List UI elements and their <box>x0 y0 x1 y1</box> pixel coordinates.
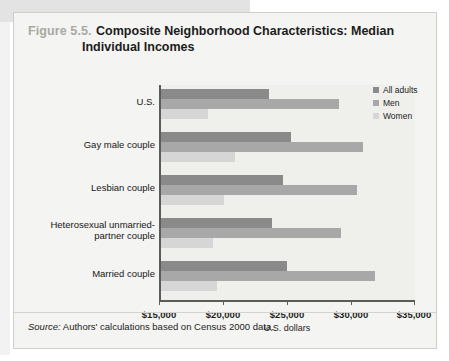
x-axis-ticklabel-35000: $35,000 <box>397 309 431 320</box>
figure-title-line-1: Figure 5.5. Composite Neighborhood Chara… <box>28 21 423 39</box>
legend-swatch-women <box>373 113 379 119</box>
x-axis-tick-4 <box>414 300 415 305</box>
figure-page: Figure 5.5. Composite Neighborhood Chara… <box>0 0 449 361</box>
legend-swatch-all-adults <box>373 87 379 93</box>
source-divider <box>14 312 436 313</box>
bar-lesbian-men <box>159 185 357 195</box>
y-axis-label-lesbian: Lesbian couple <box>25 182 155 193</box>
y-axis-label-heterosexual: Heterosexual unmarried-partner couple <box>25 219 155 241</box>
legend-label-all-adults: All adults <box>383 85 418 95</box>
x-axis-tick-2 <box>287 300 288 305</box>
bar-heterosexual-all-adults <box>159 218 272 228</box>
bar-heterosexual-women <box>159 238 213 248</box>
legend-item-men: Men <box>373 97 439 108</box>
bar-lesbian-all-adults <box>159 175 283 185</box>
x-axis-ticklabel-20000: $20,000 <box>206 309 240 320</box>
y-axis-category-labels: U.S. Gay male couple Lesbian couple Hete… <box>22 85 155 300</box>
bar-us-women <box>159 109 208 119</box>
figure-title-block: Figure 5.5. Composite Neighborhood Chara… <box>28 21 423 55</box>
y-axis-label-married: Married couple <box>25 268 155 279</box>
y-axis-label-gay-male: Gay male couple <box>25 139 155 150</box>
legend-swatch-men <box>373 100 379 106</box>
bar-us-men <box>159 99 339 109</box>
figure-container: Figure 5.5. Composite Neighborhood Chara… <box>13 12 437 349</box>
bar-heterosexual-men <box>159 228 341 238</box>
x-axis-tick-1 <box>223 300 224 305</box>
x-axis-tick-3 <box>351 300 352 305</box>
x-axis-tick-0 <box>159 300 160 305</box>
legend-label-women: Women <box>383 111 412 121</box>
bar-married-all-adults <box>159 261 287 271</box>
source-note: Source: Authors' calculations based on C… <box>28 321 274 332</box>
x-axis-ticklabel-25000: $25,000 <box>270 309 304 320</box>
bar-gay-male-women <box>159 152 235 162</box>
figure-title-text: Composite Neighborhood Characteristics: … <box>96 24 394 38</box>
chart-legend: All adults Men Women <box>373 84 439 123</box>
figure-title-line-2: Individual Incomes <box>82 39 423 55</box>
y-axis-line <box>159 85 161 300</box>
legend-item-women: Women <box>373 110 439 121</box>
x-axis-ticklabel-15000: $15,000 <box>142 309 176 320</box>
y-axis-label-us: U.S. <box>25 96 155 107</box>
x-axis-ticklabel-30000: $30,000 <box>334 309 368 320</box>
bar-gay-male-men <box>159 142 363 152</box>
bar-married-men <box>159 271 375 281</box>
legend-label-men: Men <box>383 98 400 108</box>
source-label: Source: <box>28 321 61 332</box>
bar-lesbian-women <box>159 195 224 205</box>
source-text: Authors' calculations based on Census 20… <box>61 321 274 332</box>
legend-item-all-adults: All adults <box>373 84 439 95</box>
bar-married-women <box>159 281 217 291</box>
bar-us-all-adults <box>159 89 269 99</box>
page-edge-shadow-left <box>0 0 10 355</box>
figure-number: Figure 5.5. <box>28 24 92 38</box>
bar-gay-male-all-adults <box>159 132 291 142</box>
